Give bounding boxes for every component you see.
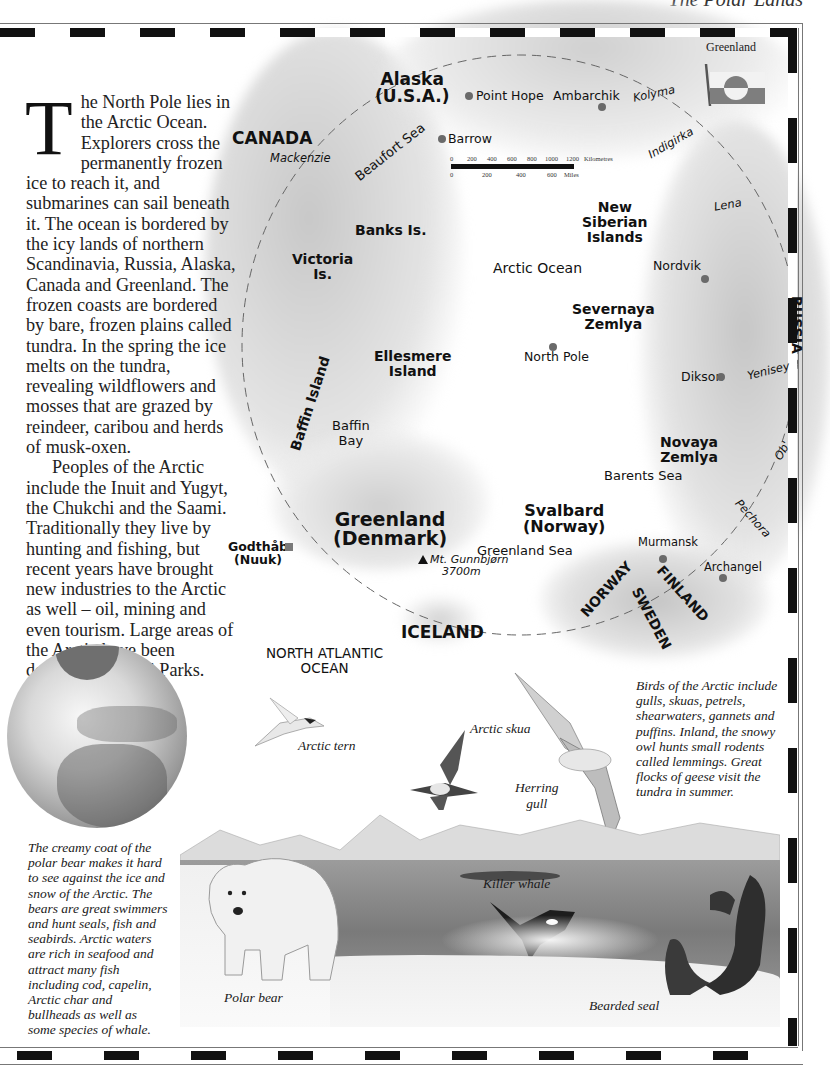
label-baffin-bay: Baffin Bay (332, 418, 370, 448)
label-iceland: ICELAND (401, 624, 484, 641)
greenland-flag-label: Greenland (706, 40, 756, 55)
border-right-stripe (788, 28, 797, 1046)
label-new-siberian-line2: Siberian (582, 215, 648, 230)
label-svalbard-country: (Norway) (523, 519, 605, 535)
scale-km-tick-200: 200 (467, 155, 477, 162)
arctic-skua-illustration (400, 725, 480, 810)
label-ambarchik: Ambarchik (553, 90, 620, 102)
mountain-peak-icon (418, 555, 428, 564)
archangel-marker-icon (719, 574, 727, 582)
ambarchik-marker-icon (598, 103, 606, 111)
label-polar-bear: Polar bear (224, 990, 283, 1006)
border-outer-line-bottom (0, 1064, 803, 1065)
dikson-marker-icon (717, 373, 725, 381)
label-severnaya-line2: Zemlya (572, 317, 655, 332)
label-herring-gull-line1: Herring (515, 780, 559, 796)
drop-cap: T (25, 96, 73, 160)
label-new-siberian-line1: New (582, 200, 648, 215)
globe-arctic-sea-patch (55, 646, 119, 680)
label-ellesmere-island: Ellesmere Island (374, 349, 451, 379)
label-archangel: Archangel (704, 561, 762, 573)
label-barrow: Barrow (448, 133, 492, 145)
barrow-marker-icon (438, 135, 446, 143)
border-outer-line-right (802, 23, 803, 1051)
scale-mile-tick-0: 0 (450, 171, 453, 178)
label-north-atlantic-ocean: NORTH ATLANTIC OCEAN (266, 646, 383, 676)
scale-mile-tick-600: 600 (547, 171, 557, 178)
label-greenland: Greenland (Denmark) (333, 510, 447, 548)
label-severnaya-line1: Severnaya (572, 302, 655, 317)
border-inner-line-right (798, 28, 799, 1046)
scale-km-tick-400: 400 (487, 155, 497, 162)
point-hope-marker-icon (465, 92, 473, 100)
caption-polar-bear: The creamy coat of the polar bear makes … (28, 840, 168, 1038)
bearded-seal-illustration (650, 865, 780, 1005)
label-novaya-zemlya: Novaya Zemlya (660, 435, 718, 465)
scale-km-tick-0: 0 (450, 155, 453, 162)
label-canada: CANADA (232, 130, 312, 147)
label-godthab-line2: (Nuuk) (228, 553, 288, 566)
map-scale: 0 200 400 600 800 1000 1200 Kilometres 0… (450, 155, 590, 179)
label-victoria-line1: Victoria (292, 252, 353, 267)
label-north-pole: North Pole (524, 351, 589, 363)
caption-birds: Birds of the Arctic include gulls, skuas… (636, 678, 788, 800)
nordvik-marker-icon (701, 275, 709, 283)
border-bottom-stripe (0, 1051, 795, 1060)
label-mt-gunnbjorn: Mt. Gunnbjørn 3700m (430, 554, 509, 578)
label-baffin-bay-line1: Baffin (332, 418, 370, 433)
scale-mile-unit: Miles (564, 171, 579, 178)
label-barents-sea: Barents Sea (604, 468, 682, 483)
label-arctic-ocean: Arctic Ocean (493, 260, 582, 276)
label-nordvik: Nordvik (653, 260, 701, 272)
border-outer-line-top (0, 23, 802, 24)
globe-land-europe (77, 706, 177, 742)
label-novaya-line1: Novaya (660, 435, 718, 450)
godthab-capital-marker-icon (285, 543, 293, 551)
label-alaska-country: (U.S.A.) (375, 88, 449, 105)
greenland-flag-icon (700, 60, 768, 110)
scale-km-tick-1000: 1000 (545, 155, 558, 162)
border-inner-line-bottom (0, 1047, 798, 1048)
label-victoria-line2: Is. (292, 267, 353, 282)
label-godthab: Godthåb (Nuuk) (228, 540, 288, 566)
label-novaya-line2: Zemlya (660, 450, 718, 465)
label-banks-island: Banks Is. (355, 223, 426, 238)
label-baffin-bay-line2: Bay (332, 433, 370, 448)
label-greenland-country: (Denmark) (333, 529, 447, 548)
label-ellesmere-line1: Ellesmere (374, 349, 451, 364)
globe-land-africa (57, 744, 167, 828)
label-river-mackenzie: Mackenzie (270, 152, 331, 164)
label-bearded-seal: Bearded seal (589, 998, 659, 1014)
label-north-atlantic-line2: OCEAN (266, 661, 383, 676)
scale-bar (451, 164, 574, 169)
scale-mile-tick-400: 400 (516, 171, 526, 178)
intro-text: T he North Pole lies in the Arctic Ocean… (26, 92, 236, 681)
scale-mile-tick-200: 200 (482, 171, 492, 178)
label-alaska: Alaska (U.S.A.) (375, 71, 449, 105)
murmansk-marker-icon (659, 555, 667, 563)
label-north-atlantic-line1: NORTH ATLANTIC (266, 646, 383, 661)
label-ellesmere-line2: Island (374, 364, 451, 379)
globe-illustration (7, 644, 187, 828)
label-new-siberian-line3: Islands (582, 230, 648, 245)
label-gunnbjorn-height: 3700m (430, 566, 509, 578)
label-arctic-tern: Arctic tern (298, 738, 356, 754)
polar-bear-illustration (190, 845, 350, 985)
label-russia: RUSSIA (789, 296, 804, 354)
scale-km-tick-800: 800 (527, 155, 537, 162)
scale-km-tick-1200: 1200 (566, 155, 579, 162)
label-point-hope: Point Hope (476, 90, 544, 102)
border-top-stripe (0, 28, 797, 37)
label-victoria-island: Victoria Is. (292, 252, 353, 282)
label-severnaya-zemlya: Severnaya Zemlya (572, 302, 655, 332)
scale-km-tick-600: 600 (507, 155, 517, 162)
label-svalbard: Svalbard (Norway) (523, 503, 605, 535)
label-murmansk: Murmansk (638, 536, 698, 548)
label-killer-whale: Killer whale (483, 876, 550, 892)
label-new-siberian-islands: New Siberian Islands (582, 200, 648, 245)
scale-km-unit: Kilometres (584, 155, 613, 162)
